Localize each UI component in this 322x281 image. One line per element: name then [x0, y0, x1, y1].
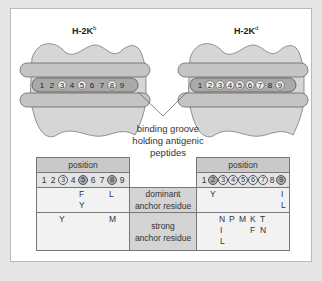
h2kd-strong-cell: N I L P M K F T N: [197, 213, 290, 251]
svg-text:5: 5: [80, 81, 85, 90]
h2kb-strong-cell: Y M: [37, 213, 130, 251]
svg-text:6: 6: [90, 81, 95, 90]
svg-text:4: 4: [70, 81, 75, 90]
allele-label-h2kb: H-2Kb: [72, 25, 96, 36]
svg-text:9: 9: [278, 81, 283, 90]
svg-text:1: 1: [198, 81, 203, 90]
left-position-numbers: 12 3 4 5 67 8 9: [37, 173, 130, 188]
svg-text:3: 3: [218, 81, 223, 90]
svg-text:2: 2: [208, 81, 213, 90]
anchor-residue-table: position position 12 3 4 5 67 8 9 1 2 3 …: [36, 157, 290, 251]
row-label-dominant: dominantanchor residue: [130, 188, 197, 213]
svg-text:6: 6: [248, 81, 253, 90]
svg-text:3: 3: [60, 81, 65, 90]
svg-text:5: 5: [238, 81, 243, 90]
svg-text:8: 8: [110, 81, 115, 90]
h2kb-dominant-cell: F Y L: [37, 188, 130, 213]
h2kd-dominant-cell: Y I L: [197, 188, 290, 213]
svg-text:2: 2: [50, 81, 55, 90]
left-position-header: position: [37, 158, 130, 173]
svg-text:1: 1: [40, 81, 45, 90]
svg-text:7: 7: [258, 81, 263, 90]
right-position-numbers: 1 2 3 4 5 6 7 8 9: [197, 173, 290, 188]
svg-text:9: 9: [120, 81, 125, 90]
groove-label: binding groove holding antigenic peptide…: [128, 123, 208, 159]
allele-label-h2kd: H-2Kd: [234, 25, 258, 36]
row-label-strong: stronganchor residue: [130, 213, 197, 251]
svg-text:8: 8: [268, 81, 273, 90]
svg-text:4: 4: [228, 81, 233, 90]
right-position-header: position: [197, 158, 290, 173]
svg-text:7: 7: [100, 81, 105, 90]
